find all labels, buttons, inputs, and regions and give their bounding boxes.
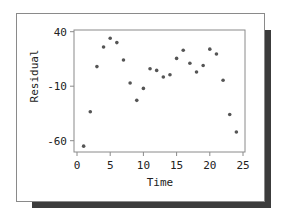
- data-point: [128, 81, 132, 85]
- data-point: [95, 65, 99, 69]
- y-axis-ticks: 40-10-60: [47, 26, 74, 148]
- data-point: [148, 67, 152, 71]
- data-point: [208, 47, 212, 51]
- data-point: [188, 62, 192, 66]
- data-point: [221, 78, 225, 82]
- data-point: [228, 113, 232, 117]
- data-point: [195, 70, 199, 74]
- data-point: [155, 69, 159, 73]
- data-point: [135, 99, 139, 103]
- plot-frame-rect: [74, 30, 245, 152]
- plot-frame: [74, 30, 245, 152]
- data-points: [82, 36, 238, 148]
- data-point: [168, 73, 172, 77]
- data-point: [175, 57, 179, 61]
- x-tick-label: 10: [137, 159, 150, 172]
- data-point: [215, 52, 219, 56]
- data-point: [82, 144, 86, 148]
- scatter-plot: 40-10-60 0510152025 Time Residual: [0, 0, 286, 216]
- y-axis-label: Residual: [28, 50, 41, 103]
- data-point: [201, 64, 205, 68]
- data-point: [162, 75, 166, 79]
- data-point: [115, 41, 119, 45]
- y-tick-label: -10: [47, 80, 67, 93]
- x-tick-label: 25: [236, 159, 249, 172]
- x-tick-label: 0: [74, 159, 81, 172]
- data-point: [181, 48, 185, 52]
- y-tick-label: -60: [47, 135, 67, 148]
- x-tick-label: 20: [203, 159, 216, 172]
- x-tick-label: 5: [107, 159, 114, 172]
- data-point: [142, 87, 146, 91]
- data-point: [102, 45, 106, 49]
- data-point: [235, 130, 239, 134]
- y-tick-label: 40: [54, 26, 67, 39]
- data-point: [122, 58, 126, 62]
- x-axis-label: Time: [147, 176, 174, 189]
- data-point: [88, 110, 92, 114]
- x-tick-label: 15: [170, 159, 183, 172]
- data-point: [108, 36, 112, 40]
- x-axis-ticks: 0510152025: [74, 152, 250, 172]
